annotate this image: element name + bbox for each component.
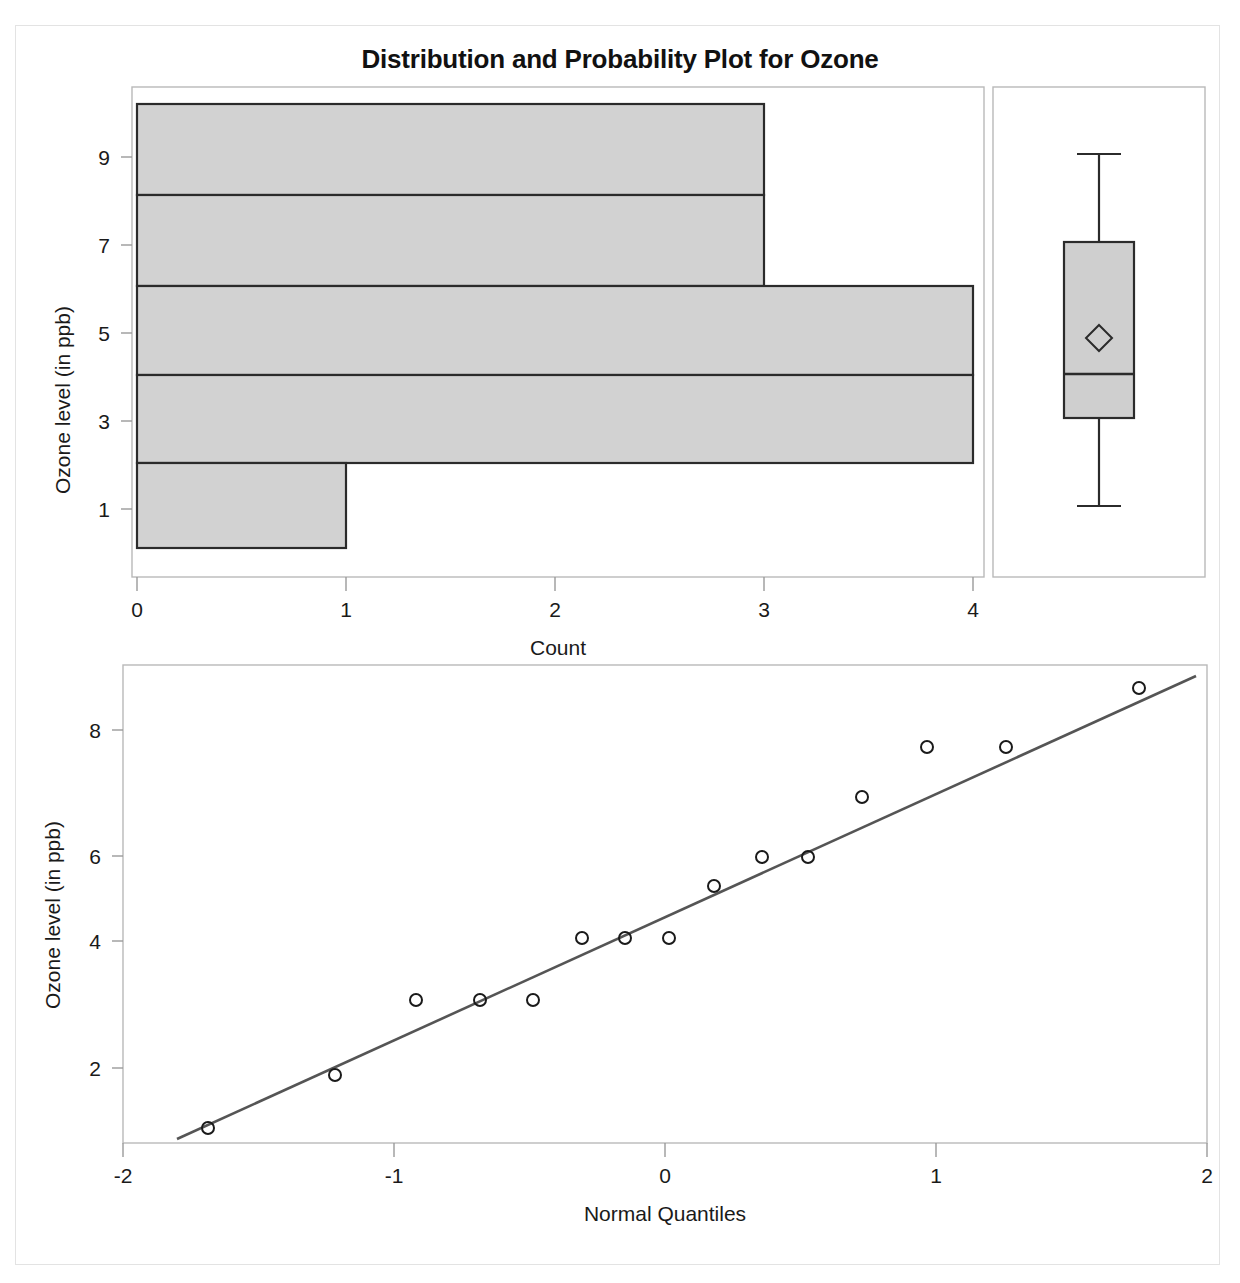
probplot-data-points [202,682,1145,1134]
boxplot-box [1064,242,1134,418]
chart-page: Distribution and Probability Plot for Oz… [0,0,1240,1283]
data-point [410,994,422,1006]
data-point [329,1069,341,1081]
probplot-x-tick-neg2: -2 [114,1164,133,1187]
data-point [921,741,933,753]
histogram-y-tick-1: 1 [98,498,110,521]
histogram-bar-bin-6-8 [137,195,764,286]
data-point [1133,682,1145,694]
data-point [708,880,720,892]
histogram-x-tick-1: 1 [340,598,352,621]
probplot-frame [123,665,1207,1143]
histogram-bar-bin-4-6 [137,286,973,375]
data-point [527,994,539,1006]
histogram-y-axis-title: Ozone level (in ppb) [51,306,74,494]
histogram-bar-bin-8-10 [137,104,764,195]
histogram-y-tick-9: 9 [98,146,110,169]
probability-plot-panel: Ozone level (in ppb) 8 6 4 2 [0,650,1240,1270]
histogram-bar-bin-2-4 [137,375,973,463]
data-point [576,932,588,944]
histogram-bars [137,104,973,548]
data-point [856,791,868,803]
probplot-x-tick-0: 0 [659,1164,671,1187]
histogram-x-tick-0: 0 [131,598,143,621]
histogram-x-tick-2: 2 [549,598,561,621]
histogram-x-ticks: 0 1 2 3 4 [131,577,979,621]
probplot-y-axis-title: Ozone level (in ppb) [41,821,64,1009]
probplot-x-ticks: -2 -1 0 1 2 [114,1143,1213,1187]
boxplot [1064,154,1134,506]
histogram-y-tick-3: 3 [98,410,110,433]
probplot-x-axis-title: Normal Quantiles [584,1202,746,1225]
histogram-y-tick-5: 5 [98,322,110,345]
probplot-y-tick-4: 4 [89,930,101,953]
data-point [663,932,675,944]
probplot-y-tick-6: 6 [89,845,101,868]
histogram-y-tick-7: 7 [98,234,110,257]
data-point [756,851,768,863]
probplot-reference-line [177,676,1196,1139]
probplot-x-tick-1: 1 [930,1164,942,1187]
histogram-boxplot-panel: Ozone level (in ppb) 1 3 5 7 9 [0,70,1240,660]
probplot-y-tick-2: 2 [89,1057,101,1080]
histogram-y-ticks: 1 3 5 7 9 [98,146,132,521]
probplot-x-tick-neg1: -1 [385,1164,404,1187]
histogram-bar-bin-0-2 [137,463,346,548]
histogram-x-tick-4: 4 [967,598,979,621]
probplot-y-ticks: 8 6 4 2 [89,719,123,1080]
data-point [1000,741,1012,753]
histogram-x-tick-3: 3 [758,598,770,621]
probplot-y-tick-8: 8 [89,719,101,742]
probplot-x-tick-2: 2 [1201,1164,1213,1187]
